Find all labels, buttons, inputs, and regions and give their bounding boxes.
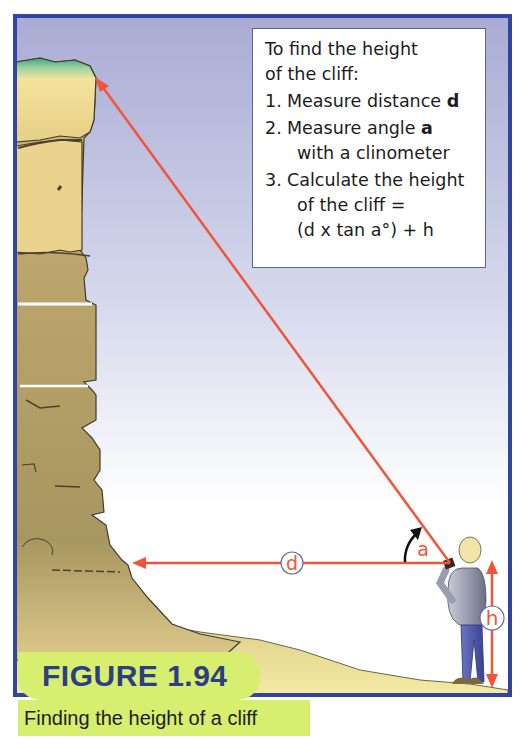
figure-label: FIGURE 1.94 (18, 652, 260, 700)
instructions-box: To find the height of the cliff: 1. Meas… (252, 28, 486, 268)
cliff-top (16, 58, 96, 142)
step-2: 2. Measure angle awith a clinometer (265, 116, 475, 166)
step-3: 3. Calculate the heightof the cliff =(d … (265, 168, 475, 243)
label-a: a (417, 538, 429, 560)
instructions-title: To find the height of the cliff: (265, 37, 475, 87)
label-h: h (486, 606, 499, 630)
step-1: 1. Measure distance d (265, 89, 475, 114)
figure-caption: Finding the height of a cliff (18, 700, 310, 736)
instructions-steps: 1. Measure distance d 2. Measure angle a… (265, 89, 475, 243)
label-d: d (286, 552, 298, 574)
